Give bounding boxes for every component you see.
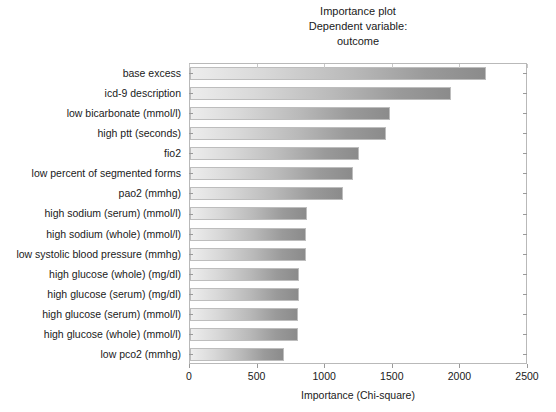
bar bbox=[190, 288, 299, 301]
category-label: high glucose (serum) (mg/dl) bbox=[47, 284, 181, 304]
y-tick-mark bbox=[189, 254, 193, 255]
y-tick-mark-right bbox=[523, 294, 527, 295]
bar bbox=[190, 127, 386, 140]
y-tick-mark-right bbox=[523, 214, 527, 215]
y-tick-mark bbox=[189, 133, 193, 134]
chart-title-line-2: Dependent variable: bbox=[189, 19, 527, 34]
bar-row bbox=[190, 164, 526, 184]
x-tick-mark bbox=[257, 364, 258, 368]
y-tick-mark-right bbox=[523, 73, 527, 74]
x-tick-mark bbox=[527, 364, 528, 368]
bar-row bbox=[190, 325, 526, 345]
y-tick-mark bbox=[189, 173, 193, 174]
bar bbox=[190, 328, 298, 341]
y-tick-mark bbox=[189, 193, 193, 194]
bar bbox=[190, 228, 306, 241]
category-label: high glucose (whole) (mmol/l) bbox=[44, 324, 181, 344]
y-tick-mark-right bbox=[523, 254, 527, 255]
plot-area bbox=[189, 63, 527, 364]
category-label: high glucose (whole) (mg/dl) bbox=[49, 264, 181, 284]
category-label: low systolic blood pressure (mmhg) bbox=[16, 244, 181, 264]
category-label: low bicarbonate (mmol/l) bbox=[67, 103, 181, 123]
bar bbox=[190, 268, 299, 281]
category-label: pao2 (mmhg) bbox=[119, 183, 181, 203]
bar-row bbox=[190, 265, 526, 285]
bar bbox=[190, 348, 284, 361]
bar bbox=[190, 248, 306, 261]
x-tick-mark-top bbox=[257, 64, 258, 68]
category-label: high glucose (serum) (mmol/l) bbox=[42, 304, 181, 324]
y-tick-mark bbox=[189, 153, 193, 154]
bar-row bbox=[190, 64, 526, 84]
x-tick-mark bbox=[392, 364, 393, 368]
y-tick-mark-right bbox=[523, 153, 527, 154]
x-tick-mark-top bbox=[392, 64, 393, 68]
category-label: base excess bbox=[123, 63, 181, 83]
bar-row bbox=[190, 204, 526, 224]
y-tick-mark bbox=[189, 234, 193, 235]
x-tick-mark-top bbox=[189, 64, 190, 68]
x-tick-mark bbox=[459, 364, 460, 368]
category-label: fio2 bbox=[164, 143, 181, 163]
bar-row bbox=[190, 225, 526, 245]
y-tick-mark bbox=[189, 294, 193, 295]
y-tick-mark-right bbox=[523, 274, 527, 275]
chart-title-line-3: outcome bbox=[189, 34, 527, 49]
y-tick-mark-right bbox=[523, 193, 527, 194]
y-tick-mark bbox=[189, 113, 193, 114]
y-tick-mark bbox=[189, 93, 193, 94]
x-tick-label: 1000 bbox=[313, 370, 336, 382]
bar bbox=[190, 308, 298, 321]
chart-title-line-1: Importance plot bbox=[189, 4, 527, 19]
y-tick-mark-right bbox=[523, 234, 527, 235]
bar-row bbox=[190, 245, 526, 265]
x-tick-label: 500 bbox=[248, 370, 266, 382]
x-tick-label: 0 bbox=[186, 370, 192, 382]
y-tick-mark bbox=[189, 354, 193, 355]
y-tick-mark-right bbox=[523, 113, 527, 114]
bar-row bbox=[190, 84, 526, 104]
bar-row bbox=[190, 124, 526, 144]
x-tick-label: 1500 bbox=[380, 370, 403, 382]
y-tick-mark-right bbox=[523, 133, 527, 134]
category-axis-labels: base excessicd-9 descriptionlow bicarbon… bbox=[0, 63, 185, 364]
category-label: high sodium (whole) (mmol/l) bbox=[46, 224, 181, 244]
x-axis-label: Importance (Chi-square) bbox=[189, 389, 527, 401]
y-tick-mark bbox=[189, 334, 193, 335]
y-tick-mark bbox=[189, 314, 193, 315]
x-tick-mark bbox=[324, 364, 325, 368]
x-tick-label: 2000 bbox=[448, 370, 471, 382]
y-tick-mark-right bbox=[523, 354, 527, 355]
y-tick-mark bbox=[189, 274, 193, 275]
bar bbox=[190, 67, 486, 80]
bar-row bbox=[190, 305, 526, 325]
y-tick-mark-right bbox=[523, 173, 527, 174]
bar bbox=[190, 207, 307, 220]
x-tick-mark bbox=[189, 364, 190, 368]
importance-plot-figure: Importance plot Dependent variable: outc… bbox=[0, 0, 556, 412]
y-tick-mark-right bbox=[523, 334, 527, 335]
y-tick-mark-right bbox=[523, 93, 527, 94]
category-label: high sodium (serum) (mmol/l) bbox=[44, 203, 181, 223]
bar bbox=[190, 107, 390, 120]
y-tick-mark bbox=[189, 73, 193, 74]
category-label: high ptt (seconds) bbox=[98, 123, 181, 143]
category-label: icd-9 description bbox=[105, 83, 181, 103]
chart-title: Importance plot Dependent variable: outc… bbox=[189, 4, 527, 49]
y-tick-mark bbox=[189, 214, 193, 215]
bar bbox=[190, 87, 451, 100]
bar-row bbox=[190, 104, 526, 124]
bar bbox=[190, 147, 359, 160]
bar bbox=[190, 167, 353, 180]
category-label: low pco2 (mmhg) bbox=[100, 344, 181, 364]
x-tick-label: 2500 bbox=[515, 370, 538, 382]
bar-row bbox=[190, 184, 526, 204]
bar bbox=[190, 187, 343, 200]
bar-row bbox=[190, 285, 526, 305]
x-tick-mark-top bbox=[459, 64, 460, 68]
category-label: low percent of segmented forms bbox=[32, 163, 181, 183]
x-tick-mark-top bbox=[324, 64, 325, 68]
bar-row bbox=[190, 345, 526, 365]
y-tick-mark-right bbox=[523, 314, 527, 315]
x-tick-mark-top bbox=[527, 64, 528, 68]
